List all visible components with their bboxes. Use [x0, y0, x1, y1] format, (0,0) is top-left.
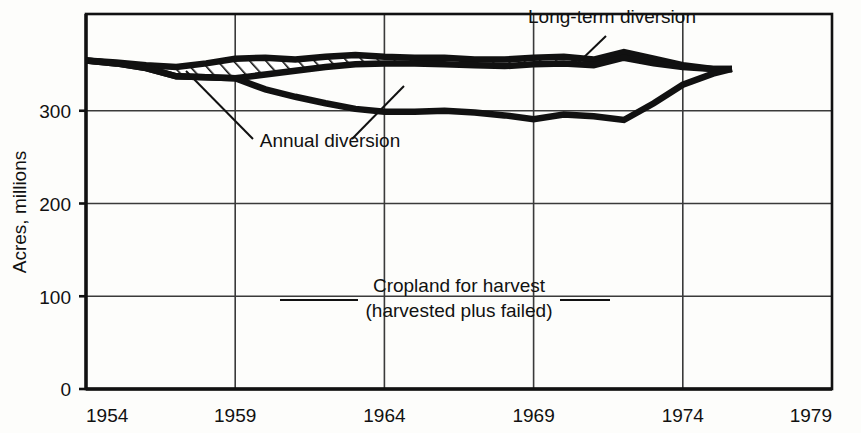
y-axis-title: Acres, millions [9, 151, 30, 273]
x-tick-label-1954: 1954 [86, 405, 129, 426]
x-tick-label-1969: 1969 [512, 405, 554, 426]
annotation-cropland-line2: (harvested plus failed) [366, 300, 553, 321]
y-tick-label-300: 300 [39, 101, 71, 122]
x-tick-label-1959: 1959 [214, 405, 256, 426]
annotation-long-term-diversion: Long-term diversion [528, 6, 696, 27]
x-tick-label-1964: 1964 [363, 405, 406, 426]
line-chart: 300 200 100 0 1954 1959 1964 1969 1974 1… [0, 0, 861, 433]
y-tick-label-0: 0 [60, 379, 71, 400]
annotation-cropland-line1: Cropland for harvest [373, 275, 546, 296]
annotation-annual-diversion: Annual diversion [260, 130, 400, 151]
chart-figure: 300 200 100 0 1954 1959 1964 1969 1974 1… [0, 0, 861, 433]
y-tick-label-200: 200 [39, 194, 71, 215]
x-tick-label-1979: 1979 [790, 405, 832, 426]
x-tick-label-1974: 1974 [662, 405, 705, 426]
y-tick-label-100: 100 [39, 287, 71, 308]
